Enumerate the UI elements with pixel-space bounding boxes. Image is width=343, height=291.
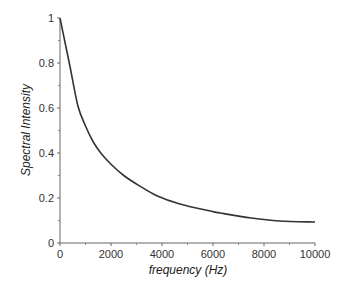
- axes: 00.20.40.60.810200040006000800010000: [39, 12, 331, 260]
- x-tick-label: 0: [57, 248, 63, 260]
- y-axis-label: Spectral Intensity: [19, 83, 33, 176]
- y-tick-label: 0: [48, 237, 54, 249]
- y-tick-label: 0.2: [39, 192, 54, 204]
- y-tick-label: 0.8: [39, 57, 54, 69]
- x-tick-label: 10000: [300, 248, 331, 260]
- x-tick-label: 6000: [201, 248, 225, 260]
- y-tick-label: 1: [48, 12, 54, 24]
- x-tick-label: 4000: [150, 248, 174, 260]
- x-axis-label: frequency (Hz): [149, 263, 228, 277]
- x-tick-label: 8000: [252, 248, 276, 260]
- y-tick-label: 0.6: [39, 102, 54, 114]
- spectral-curve: [60, 18, 315, 222]
- x-tick-label: 2000: [99, 248, 123, 260]
- spectral-intensity-chart: 00.20.40.60.810200040006000800010000 fre…: [0, 0, 343, 291]
- y-tick-label: 0.4: [39, 147, 54, 159]
